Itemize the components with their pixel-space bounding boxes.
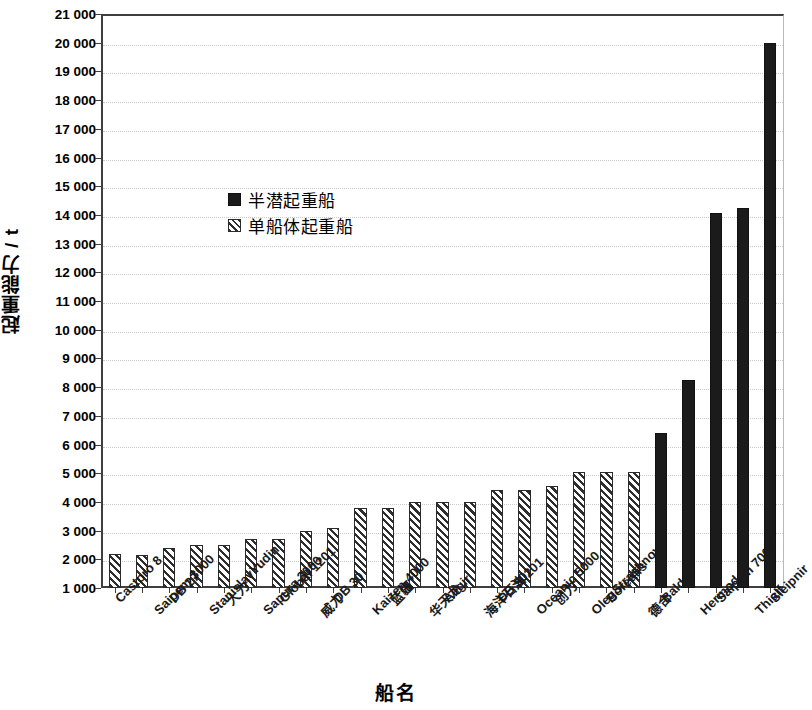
y-axis-tick-label: 9 000 [10,351,96,366]
y-axis-tick-label: 20 000 [10,35,96,50]
y-axis-tick-label: 19 000 [10,64,96,79]
bar [491,490,503,588]
y-axis-tick-label: 18 000 [10,93,96,108]
y-axis-tick-label: 16 000 [10,150,96,165]
y-axis-tick-label: 14 000 [10,207,96,222]
x-axis-tick-mark [634,588,635,593]
x-axis-tick-mark [524,588,525,593]
x-axis-tick-mark [361,588,362,593]
y-axis-tick-label: 6 000 [10,437,96,452]
y-axis-tick-label: 21 000 [10,7,96,22]
bar [546,486,558,588]
x-axis-tick-mark [306,588,307,593]
legend-item-semisub: 半潜起重船 [228,186,380,212]
y-axis-tick-label: 13 000 [10,236,96,251]
legend-item-monohull: 单船体起重船 [228,212,380,238]
bar [682,380,694,588]
legend-label-semisub: 半潜起重船 [248,187,336,212]
bar [600,472,612,588]
x-axis-tick-mark [743,588,744,593]
y-axis-tick-label: 5 000 [10,466,96,481]
bar [655,433,667,588]
bar [218,545,230,588]
legend: 半潜起重船 单船体起重船 [228,186,380,238]
bar [737,208,749,588]
x-axis-title: 船名 [0,678,791,705]
bars-layer [101,14,784,588]
x-axis-tick-mark [142,588,143,593]
y-axis-tick-label: 1 000 [10,581,96,596]
y-axis-tick-label: 15 000 [10,179,96,194]
y-axis-tick-label: 2 000 [10,552,96,567]
bar [163,548,175,588]
bar [382,508,394,588]
x-axis-tick-mark [197,588,198,593]
y-axis-tick-label: 7 000 [10,408,96,423]
legend-label-monohull: 单船体起重船 [248,213,353,238]
y-axis-tick-label: 17 000 [10,121,96,136]
bar [710,213,722,588]
bar [764,43,776,588]
y-axis-tick-label: 12 000 [10,265,96,280]
x-axis-tick-mark [470,588,471,593]
y-axis-tick-label: 3 000 [10,523,96,538]
bar [436,502,448,588]
y-axis-tick-label: 4 000 [10,494,96,509]
y-axis-tick-label: 10 000 [10,322,96,337]
y-axis-tick-label: 8 000 [10,380,96,395]
legend-swatch-monohull-icon [228,219,241,232]
x-axis-tick-mark [688,588,689,593]
y-axis-tick-mark [95,588,101,589]
y-axis-tick-label: 11 000 [10,294,96,309]
legend-swatch-semisub-icon [228,193,241,206]
bar [109,554,121,588]
